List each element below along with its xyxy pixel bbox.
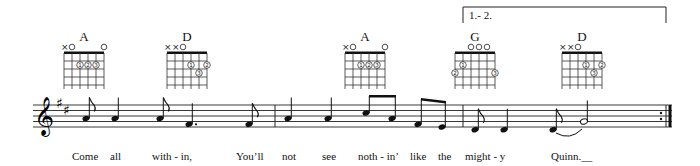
svg-text:3: 3: [197, 70, 201, 76]
score-svg: 𝄞 ♯ ♯ ×123××123×123123××123: [0, 0, 700, 166]
lyric-syllable: all: [110, 150, 121, 162]
volta-label: 1.- 2.: [469, 9, 492, 21]
note: [111, 98, 120, 123]
lyric-syllable: Quinn.__: [551, 150, 592, 162]
chord-name: G: [455, 29, 495, 45]
treble-clef-icon: 𝄞: [34, 95, 54, 137]
chord-name: A: [64, 29, 104, 45]
chord-diagram-a: ×123: [342, 42, 388, 89]
note: [500, 109, 509, 134]
staff: [33, 105, 672, 127]
note: [324, 98, 333, 123]
chord-name: D: [562, 29, 602, 45]
lyric-syllable: noth - in’: [358, 150, 399, 162]
note: [82, 98, 96, 123]
svg-text:1: 1: [359, 62, 363, 68]
chord-name: A: [345, 29, 385, 45]
svg-text:1: 1: [78, 62, 82, 68]
note: [580, 101, 589, 126]
lyric-syllable: You’ll: [236, 150, 264, 162]
svg-text:2: 2: [367, 62, 371, 68]
chord-diagram-d: ××123: [164, 42, 210, 89]
note: [156, 98, 170, 123]
chord-diagram-g: 123: [452, 44, 499, 89]
lyric-syllable: Come: [72, 150, 98, 162]
note: [284, 98, 293, 123]
svg-text:3: 3: [493, 70, 497, 76]
lyric-syllable: might - y: [465, 150, 505, 162]
lyric-syllable: see: [322, 150, 336, 162]
sheet-music: 𝄞 ♯ ♯ ×123××123×123123××123 1.- 2. Comea…: [0, 0, 700, 166]
lyric-syllable: like: [410, 150, 427, 162]
svg-text:1: 1: [461, 62, 465, 68]
svg-text:2: 2: [205, 62, 209, 68]
svg-text:3: 3: [375, 62, 379, 68]
svg-text:3: 3: [94, 62, 98, 68]
lyric-syllable: with - in,: [152, 150, 192, 162]
sharp-icon: ♯: [56, 95, 63, 111]
chord-diagram-a: ×123: [61, 42, 107, 89]
svg-text:2: 2: [600, 62, 604, 68]
chord-diagram-d: ××123: [559, 42, 605, 89]
sharp-icon: ♯: [63, 102, 70, 118]
chord-name: D: [167, 29, 207, 45]
svg-text:3: 3: [592, 70, 596, 76]
chord-diagrams: ×123××123×123123××123: [61, 42, 605, 89]
volta-bracket: [463, 7, 666, 23]
note: [471, 109, 485, 134]
svg-text:2: 2: [453, 70, 457, 76]
note: [549, 109, 563, 134]
svg-text:1: 1: [584, 62, 588, 68]
lyric-syllable: not: [282, 150, 296, 162]
lyric-syllable: the: [438, 150, 451, 162]
svg-text:2: 2: [86, 62, 90, 68]
svg-text:1: 1: [189, 62, 193, 68]
